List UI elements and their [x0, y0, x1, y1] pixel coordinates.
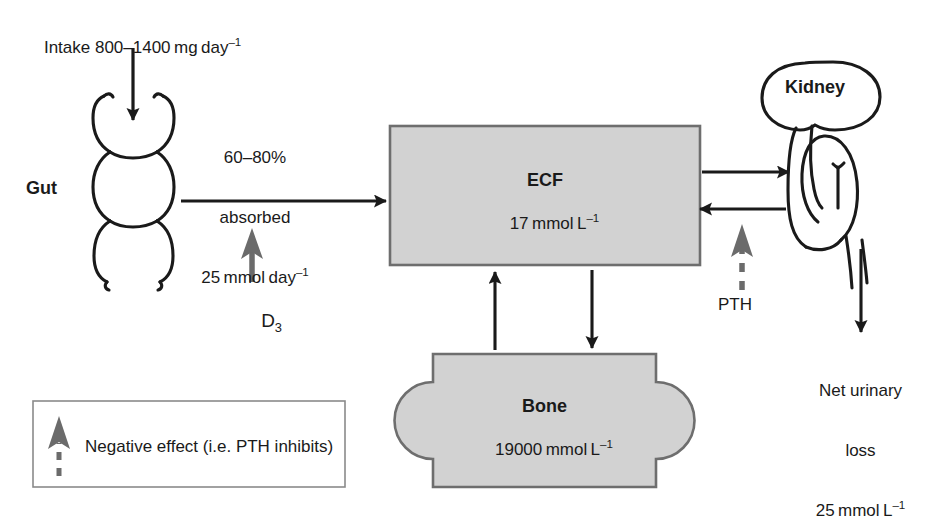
urinary-loss-line-3: 25 mmol L–1 — [788, 501, 932, 521]
absorption-line-1: 60–80% — [190, 148, 320, 168]
diagram-canvas: Intake 800–1400 mg day–1 Gut 60–80% abso… — [0, 0, 932, 527]
absorption-line-2: absorbed — [190, 208, 320, 228]
gut-label: Gut — [26, 178, 57, 199]
pth-label: PTH — [718, 295, 752, 315]
urinary-loss-label: Net urinary loss 25 mmol L–1 — [788, 341, 932, 527]
bone-value: 19000 mmol L–1 — [433, 420, 656, 480]
gut-organ-icon — [93, 94, 174, 290]
vitamin-d3-label: D3 — [240, 288, 282, 355]
urinary-loss-line-2: loss — [788, 441, 932, 461]
pth-arrow — [731, 224, 753, 290]
ecf-value: 17 mmol L–1 — [390, 194, 700, 254]
intake-label: Intake 800–1400 mg day–1 — [25, 18, 241, 78]
absorption-line-3: 25 mmol day–1 — [190, 268, 320, 288]
ecf-title: ECF — [390, 170, 700, 191]
legend-label: Negative effect (i.e. PTH inhibits) — [85, 437, 333, 457]
kidney-label: Kidney — [785, 77, 845, 98]
urinary-loss-line-1: Net urinary — [788, 381, 932, 401]
bone-title: Bone — [433, 396, 656, 417]
